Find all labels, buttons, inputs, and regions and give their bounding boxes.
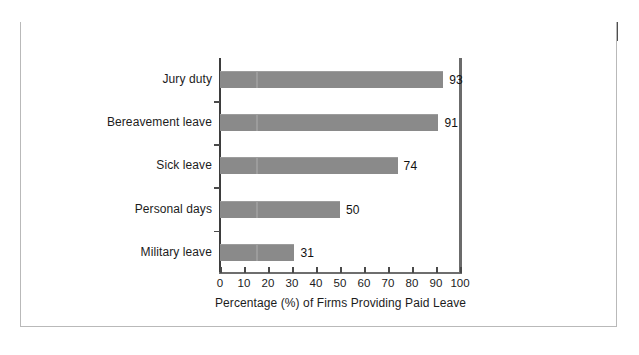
exhibit-frame xyxy=(20,22,617,327)
